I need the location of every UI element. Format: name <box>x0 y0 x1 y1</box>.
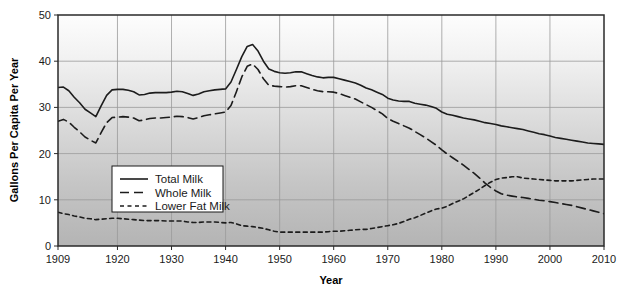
x-tick-label-1990: 1990 <box>484 253 508 265</box>
x-tick-label-1970: 1970 <box>376 253 400 265</box>
y-tick-label-0: 0 <box>45 240 51 252</box>
y-tick-label-50: 50 <box>39 9 51 21</box>
x-tick-label-1930: 1930 <box>159 253 183 265</box>
x-tick-label-1950: 1950 <box>267 253 291 265</box>
x-tick-label-2010: 2010 <box>592 253 616 265</box>
y-tick-label-40: 40 <box>39 55 51 67</box>
x-tick-label-1980: 1980 <box>430 253 454 265</box>
y-axis-title: Gallons Per Capita Per Year <box>8 57 20 202</box>
legend-label-whole-milk: Whole Milk <box>155 187 211 199</box>
chart-figure: 1909192019301940195019601970198019902000… <box>0 0 623 295</box>
y-axis-ticks: 01020304050 <box>39 9 58 252</box>
x-axis-ticks: 1909192019301940195019601970198019902000… <box>46 246 616 265</box>
x-tick-label-1940: 1940 <box>213 253 237 265</box>
x-tick-label-1920: 1920 <box>105 253 129 265</box>
y-tick-label-20: 20 <box>39 148 51 160</box>
x-tick-label-1960: 1960 <box>321 253 345 265</box>
y-tick-label-10: 10 <box>39 194 51 206</box>
x-tick-label-1909: 1909 <box>46 253 70 265</box>
legend-label-total-milk: Total Milk <box>155 173 203 185</box>
x-tick-label-2000: 2000 <box>538 253 562 265</box>
y-tick-label-30: 30 <box>39 101 51 113</box>
x-axis-title: Year <box>319 274 343 286</box>
milk-consumption-line-chart: 1909192019301940195019601970198019902000… <box>0 0 623 295</box>
legend-label-lower-fat-milk: Lower Fat Milk <box>155 200 230 212</box>
chart-legend: Total MilkWhole MilkLower Fat Milk <box>112 166 230 212</box>
